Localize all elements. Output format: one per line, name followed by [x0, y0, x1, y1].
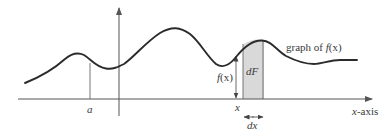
width-label-dx: dx	[247, 119, 258, 131]
strip-label-dF: dF	[246, 65, 259, 77]
point-a-label: a	[87, 103, 93, 115]
x-axis-label: x-axis	[351, 105, 378, 117]
height-label-fx: f(x)	[217, 71, 233, 84]
point-x-label: x	[234, 101, 240, 113]
curve-label: graph of f(x)	[286, 41, 342, 54]
area-under-curve-diagram: a x f(x) dF dx graph of f(x) x-axis	[0, 0, 392, 137]
curve-f-of-x	[25, 28, 357, 83]
